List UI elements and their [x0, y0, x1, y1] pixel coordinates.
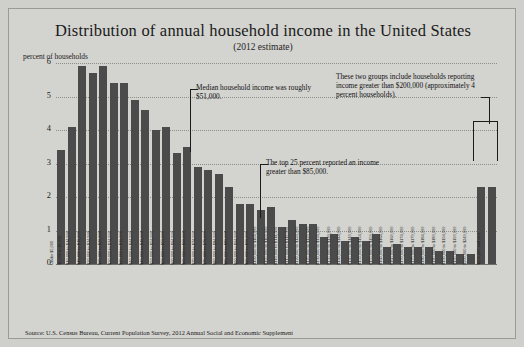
x-axis-tick-label: $55,000 to $59,999 — [160, 231, 165, 265]
y-axis-tick: 4 — [31, 124, 51, 133]
x-tick-cell: $50,000 to $54,999 — [161, 265, 172, 325]
x-tick-cell: $10,000 to $14,999 — [77, 265, 88, 325]
x-axis-tick-label: $130,000 to $134,999 — [315, 227, 320, 265]
x-tick-cell: $90,000 to $94,999 — [245, 265, 256, 325]
annotation-top-groups: These two groups include households repo… — [336, 72, 488, 100]
x-tick-cell: $55,000 to $59,999 — [172, 265, 183, 325]
chart-subtitle: (2012 estimate) — [9, 42, 517, 52]
x-axis-tick-label: $35,000 to $39,999 — [118, 231, 123, 265]
x-tick-cell: $180,000 to $184,999 — [434, 265, 445, 325]
x-axis-tick-label: $115,000 to $119,999 — [284, 227, 289, 265]
x-axis-tick-label: $175,000 to $179,999 — [410, 227, 415, 265]
x-tick-cell: $15,000 to $19,999 — [88, 265, 99, 325]
annotation-top25: The top 25 percent reported an income gr… — [266, 158, 386, 176]
x-tick-cell: $175,000 to $179,999 — [424, 265, 435, 325]
x-axis-tick-label: Under $5,000 — [49, 241, 54, 265]
x-tick-cell: $120,000 to $124,999 — [308, 265, 319, 325]
x-axis-tick-label: $110,000 to $114,999 — [273, 227, 278, 265]
annotation-median: Median household income was roughly $51,… — [196, 83, 316, 101]
x-tick-cell: $185,000 to $189,999 — [445, 265, 456, 325]
x-axis-tick-label: $50,000 to $54,999 — [149, 231, 154, 265]
x-axis-tick-label: $90,000 to $94,999 — [233, 231, 238, 265]
x-tick-cell: $65,000 to $69,999 — [193, 265, 204, 325]
x-tick-cell: $30,000 to $34,999 — [119, 265, 130, 325]
x-tick-cell: $130,000 to $134,999 — [329, 265, 340, 325]
x-axis-tick-label: $135,000 to $139,999 — [326, 227, 331, 265]
source-note: Source: U.S. Census Bureau, Current Popu… — [25, 329, 293, 336]
x-axis-tick-label: $60,000 to $64,999 — [170, 231, 175, 265]
x-tick-cell: $20,000 to $24,999 — [98, 265, 109, 325]
x-axis-tick-label: $80,000 to $84,999 — [212, 231, 217, 265]
x-axis-tick-label: $125,000 to $129,999 — [305, 227, 310, 265]
x-axis-tick-label: $190,000 to $194,999 — [441, 227, 446, 265]
x-axis-tick-label: $65,000 to $69,999 — [181, 231, 186, 265]
x-axis-tick-label: $195,000 to $199,999 — [452, 227, 457, 265]
y-axis-tick: 1 — [31, 225, 51, 234]
x-axis-tick-label: $85,000 to $89,999 — [223, 231, 228, 265]
y-axis-tick: 3 — [31, 158, 51, 167]
x-axis-tick-label: $170,000 to $174,999 — [399, 227, 404, 265]
x-axis-tick-label: $140,000 to $144,999 — [336, 227, 341, 265]
bar — [488, 187, 496, 264]
x-axis-tick-label: $120,000 to $124,999 — [294, 227, 299, 265]
bar-cell — [487, 63, 498, 264]
x-tick-cell: $25,000 to $29,999 — [109, 265, 120, 325]
chart-title: Distribution of annual household income … — [9, 21, 517, 41]
x-axis-tick-label: $40,000 to $44,999 — [128, 231, 133, 265]
x-axis-tick-label: $70,000 to $74,999 — [191, 231, 196, 265]
x-axis-tick-label: $100,000 to $104,999 — [252, 227, 257, 265]
chart-page: Distribution of annual household income … — [0, 0, 524, 347]
x-tick-cell: $165,000 to $169,999 — [403, 265, 414, 325]
x-axis-tick-label: $200,000 to $249,999 — [462, 227, 467, 265]
x-tick-cell: Under $5,000 — [56, 265, 67, 325]
x-tick-cell: $190,000 to $194,999 — [455, 265, 466, 325]
x-tick-cell: $35,000 to $39,999 — [130, 265, 141, 325]
x-axis-tick-label: $180,000 to $184,999 — [420, 227, 425, 265]
x-tick-cell: $150,000 to $154,999 — [371, 265, 382, 325]
x-tick-cell: $100,000 to $104,999 — [266, 265, 277, 325]
x-tick-cell: $60,000 to $64,999 — [182, 265, 193, 325]
x-tick-cell: $195,000 to $199,999 — [466, 265, 477, 325]
x-tick-cell: $75,000 to $79,999 — [214, 265, 225, 325]
x-axis-tick-label: $10,000 to $14,999 — [65, 231, 70, 265]
x-tick-cell: $110,000 to $114,999 — [287, 265, 298, 325]
x-tick-cell: $5,000 to $9,999 — [67, 265, 78, 325]
x-axis-tick-label: $15,000 to $19,999 — [76, 231, 81, 265]
x-axis-tick-label: $160,000 to $164,999 — [378, 227, 383, 265]
x-axis-tick-label: $150,000 to $154,999 — [357, 227, 362, 265]
x-axis-tick-label: $30,000 to $34,999 — [107, 231, 112, 265]
x-axis-tick-label: $5,000 to $9,999 — [57, 235, 62, 265]
x-axis-tick-label: $20,000 to $24,999 — [86, 231, 91, 265]
x-tick-cell: $140,000 to $144,999 — [350, 265, 361, 325]
x-tick-cell: $155,000 to $159,999 — [382, 265, 393, 325]
y-axis-tick: 6 — [31, 57, 51, 66]
x-axis-tick-label: $75,000 to $79,999 — [202, 231, 207, 265]
x-tick-cell: $40,000 to $44,999 — [140, 265, 151, 325]
x-tick-cell: $170,000 to $174,999 — [413, 265, 424, 325]
y-axis-tick: 2 — [31, 191, 51, 200]
x-tick-cell: $115,000 to $119,999 — [298, 265, 309, 325]
x-tick-cell: $95,000 to $99,999 — [256, 265, 267, 325]
x-tick-cell: $45,000 to $49,999 — [151, 265, 162, 325]
x-axis-tick-label: $250,000 and over — [475, 232, 480, 265]
x-axis-tick-label: $165,000 to $169,999 — [389, 227, 394, 265]
x-axis-tick-label: $95,000 to $99,999 — [244, 231, 249, 265]
x-tick-cell: $85,000 to $89,999 — [235, 265, 246, 325]
x-axis-tick-label: $25,000 to $29,999 — [97, 231, 102, 265]
x-tick-cell: $250,000 and over — [487, 265, 498, 325]
x-tick-cell: $105,000 to $109,999 — [277, 265, 288, 325]
x-axis-tick-label: $145,000 to $149,999 — [347, 227, 352, 265]
highlight-bracket — [473, 121, 498, 161]
x-tick-cell: $135,000 to $139,999 — [340, 265, 351, 325]
x-tick-cell: $160,000 to $164,999 — [392, 265, 403, 325]
y-axis-tick: 5 — [31, 91, 51, 100]
x-axis-tick-label: $45,000 to $49,999 — [139, 231, 144, 265]
bar — [467, 254, 475, 264]
x-axis-tick-label: $185,000 to $189,999 — [431, 227, 436, 265]
annotation-leader-top-groups — [481, 97, 490, 124]
x-tick-cell: $145,000 to $149,999 — [361, 265, 372, 325]
x-axis-tick-label: $155,000 to $159,999 — [368, 227, 373, 265]
x-tick-cell: $125,000 to $129,999 — [319, 265, 330, 325]
x-axis-tick-labels: Under $5,000$5,000 to $9,999$10,000 to $… — [56, 265, 497, 325]
x-tick-cell: $80,000 to $84,999 — [224, 265, 235, 325]
